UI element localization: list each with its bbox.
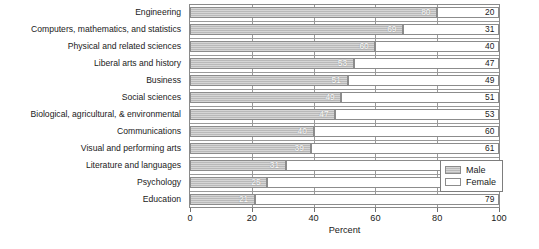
x-tick-label: 60 — [370, 213, 380, 224]
bar-segment-female — [354, 58, 499, 69]
bar-value-female: 61 — [485, 143, 494, 154]
bar-segment-male — [190, 24, 403, 35]
bar-value-male: 51 — [332, 75, 341, 86]
bar-row: 4951 — [190, 90, 499, 107]
bar-value-male: 49 — [325, 92, 334, 103]
bar-row: 4060 — [190, 124, 499, 141]
category-axis: EngineeringComputers, mathematics, and s… — [0, 4, 185, 208]
legend-label-female: Female — [466, 177, 496, 188]
bar-value-male: 80 — [421, 7, 430, 18]
x-tick-mark — [190, 208, 191, 212]
bar-segment-male — [190, 109, 335, 120]
bar-segment-female — [348, 75, 499, 86]
bar-segment-female — [255, 194, 499, 205]
bar-value-male: 60 — [359, 41, 368, 52]
bar-segment-female — [314, 126, 499, 137]
category-label: Social sciences — [0, 89, 181, 106]
bar-segment-male — [190, 143, 311, 154]
category-label: Communications — [0, 123, 181, 140]
bar-chart: EngineeringComputers, mathematics, and s… — [0, 0, 539, 249]
category-label: Education — [0, 191, 181, 208]
bar-row: 4753 — [190, 107, 499, 124]
legend-swatch-female-icon — [445, 178, 461, 186]
bar-segment-female — [341, 92, 499, 103]
bar-value-male: 47 — [319, 109, 328, 120]
bar-row: 3961 — [190, 141, 499, 158]
bar-value-male: 25 — [251, 177, 260, 188]
x-tick-mark — [314, 208, 315, 212]
bar-value-female: 31 — [485, 24, 494, 35]
bar-value-male: 53 — [338, 58, 347, 69]
x-tick-mark — [375, 208, 376, 212]
bar-value-male: 21 — [239, 194, 248, 205]
bar-value-female: 51 — [485, 92, 494, 103]
bar-row: 6040 — [190, 39, 499, 56]
category-label: Business — [0, 72, 181, 89]
chart-legend: Male Female — [440, 160, 503, 192]
bar-value-male: 39 — [295, 143, 304, 154]
category-label: Liberal arts and history — [0, 55, 181, 72]
bar-row: 6931 — [190, 22, 499, 39]
x-tick-label: 100 — [491, 213, 506, 224]
category-label: Biological, agricultural, & environmenta… — [0, 106, 181, 123]
bar-value-female: 79 — [485, 194, 494, 205]
bar-value-female: 40 — [485, 41, 494, 52]
bar-value-female: 49 — [485, 75, 494, 86]
bar-segment-male — [190, 126, 314, 137]
legend-label-male: Male — [466, 165, 486, 176]
category-label: Computers, mathematics, and statistics — [0, 21, 181, 38]
category-label: Physical and related sciences — [0, 38, 181, 55]
bar-value-male: 31 — [270, 160, 279, 171]
x-tick-label: 40 — [308, 213, 318, 224]
category-label: Psychology — [0, 174, 181, 191]
bar-value-female: 53 — [485, 109, 494, 120]
legend-item-female: Female — [445, 176, 498, 188]
bar-value-male: 40 — [298, 126, 307, 137]
bar-value-female: 47 — [485, 58, 494, 69]
legend-swatch-male-icon — [445, 166, 461, 174]
bar-row: 5347 — [190, 56, 499, 73]
bar-segment-male — [190, 41, 375, 52]
bar-segment-male — [190, 7, 437, 18]
x-axis-title: Percent — [189, 225, 500, 235]
bar-segment-male — [190, 58, 354, 69]
x-tick-mark — [252, 208, 253, 212]
x-tick-label: 20 — [247, 213, 257, 224]
bar-row: 5149 — [190, 73, 499, 90]
legend-item-male: Male — [445, 164, 498, 176]
bar-value-female: 20 — [485, 7, 494, 18]
bar-segment-male — [190, 75, 348, 86]
bar-segment-female — [311, 143, 499, 154]
bar-segment-female — [375, 41, 499, 52]
bar-value-male: 69 — [387, 24, 396, 35]
x-axis: Percent 020406080100 — [189, 208, 500, 238]
bar-row: 2179 — [190, 192, 499, 209]
x-tick-mark — [499, 208, 500, 212]
x-tick-mark — [437, 208, 438, 212]
category-label: Visual and performing arts — [0, 140, 181, 157]
bar-segment-female — [335, 109, 499, 120]
bar-row: 8020 — [190, 5, 499, 22]
bar-segment-male — [190, 92, 341, 103]
category-label: Literature and languages — [0, 157, 181, 174]
x-tick-label: 0 — [187, 213, 192, 224]
x-tick-label: 80 — [432, 213, 442, 224]
category-label: Engineering — [0, 4, 181, 21]
bar-value-female: 60 — [485, 126, 494, 137]
